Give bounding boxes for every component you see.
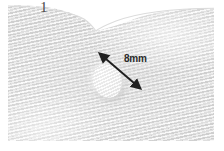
panel-number-label: 1 <box>40 0 48 15</box>
surface-cleft-notch <box>8 5 214 35</box>
ultrasound-figure-panel: 8mm 1 <box>0 0 224 151</box>
ultrasound-scan-image: 8mm <box>8 5 214 141</box>
measurement-value-label: 8mm <box>124 53 147 64</box>
